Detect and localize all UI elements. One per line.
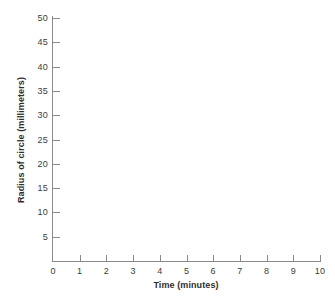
x-axis-tick <box>213 255 214 262</box>
x-axis-tick <box>320 255 321 262</box>
x-axis-tick-label: 7 <box>225 266 255 276</box>
x-axis-tick <box>240 255 241 262</box>
x-axis-tick-label: 8 <box>252 266 282 276</box>
x-axis-tick <box>293 255 294 262</box>
y-axis-tick <box>53 237 60 238</box>
x-axis-tick-label: 5 <box>172 266 202 276</box>
plot-area <box>53 16 321 261</box>
y-axis-tick <box>53 115 60 116</box>
x-axis-tick-label: 9 <box>278 266 308 276</box>
x-axis-tick <box>160 255 161 262</box>
y-axis-tick <box>53 212 60 213</box>
x-axis-tick-label: 0 <box>38 266 68 276</box>
x-axis-tick-label: 2 <box>91 266 121 276</box>
x-axis-tick <box>133 255 134 262</box>
x-axis-tick-label: 10 <box>305 266 335 276</box>
empty-coordinate-graph: 5101520253035404550 012345678910 Radius … <box>0 0 335 300</box>
y-axis-tick <box>53 91 60 92</box>
x-axis-tick-label: 6 <box>198 266 228 276</box>
y-axis-title: Radius of circle (millimeters) <box>14 15 28 265</box>
y-axis-tick <box>53 188 60 189</box>
y-axis-tick <box>53 164 60 165</box>
x-axis-tick-label: 3 <box>118 266 148 276</box>
x-axis-tick <box>187 255 188 262</box>
y-axis-tick <box>53 18 60 19</box>
y-axis-tick <box>53 140 60 141</box>
y-axis-tick <box>53 67 60 68</box>
y-axis-tick <box>53 42 60 43</box>
x-axis-tick-label: 4 <box>145 266 175 276</box>
x-axis-tick <box>267 255 268 262</box>
x-axis-tick <box>80 255 81 262</box>
x-axis-tick-label: 1 <box>65 266 95 276</box>
x-axis-title: Time (minutes) <box>52 279 320 291</box>
x-axis-tick <box>106 255 107 262</box>
